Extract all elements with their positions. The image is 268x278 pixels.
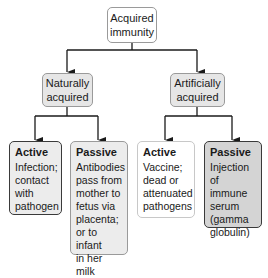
root-node-acquired-immunity: Acquired immunity	[107, 7, 157, 43]
root-node-label: Acquired immunity	[110, 11, 154, 39]
leaf-artificial-active: Active Vaccine; dead or attenuated patho…	[137, 141, 195, 218]
leaf-description: Antibodies pass from mother to fetus via…	[76, 161, 123, 278]
leaf-title: Passive	[76, 146, 123, 159]
leaf-description: Injection of immune serum (gamma globuli…	[210, 161, 257, 239]
leaf-description: Infection; contact with pathogen	[15, 161, 57, 213]
leaf-title: Active	[143, 146, 190, 159]
node-label: Naturally acquired	[45, 76, 90, 104]
node-naturally-acquired: Naturally acquired	[42, 73, 93, 107]
leaf-artificial-passive: Passive Injection of immune serum (gamma…	[204, 141, 262, 228]
node-label: Artificially acquired	[173, 76, 222, 104]
leaf-title: Passive	[210, 146, 257, 159]
leaf-natural-passive: Passive Antibodies pass from mother to f…	[70, 141, 128, 255]
node-artificially-acquired: Artificially acquired	[170, 73, 225, 107]
leaf-natural-active: Active Infection; contact with pathogen	[9, 141, 62, 215]
leaf-title: Active	[15, 146, 57, 159]
leaf-description: Vaccine; dead or attenuated pathogens	[143, 161, 190, 213]
